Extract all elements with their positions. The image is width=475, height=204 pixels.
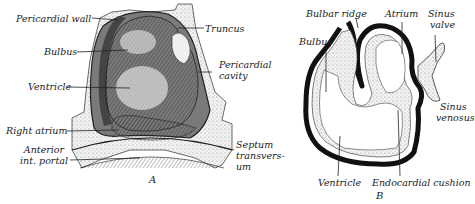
label-sinus-venosus-line1: Sinus [440, 102, 467, 112]
label-ventricle-b: Ventricle [318, 178, 361, 188]
label-right-atrium: Right atrium [6, 126, 67, 136]
figure-b-caption: B [376, 190, 383, 201]
label-truncus: Truncus [205, 24, 244, 34]
label-sinus-valve-line1: Sinus [428, 9, 455, 19]
label-bulbus-a: Bulbus [44, 47, 77, 57]
label-sinus-valve-line2: valve [430, 20, 455, 30]
figure-a-caption: A [149, 174, 156, 185]
label-anterior-portal-line1: Anterior [20, 145, 68, 155]
label-anterior-portal-line2: int. portal [18, 156, 70, 166]
label-septum-line3: um [236, 162, 251, 172]
label-pericardial-wall: Pericardial wall [16, 14, 91, 24]
label-pericardial-cavity-line1: Pericardial [219, 60, 272, 70]
label-bulbar-ridge: Bulbar ridge [306, 9, 367, 19]
label-endocardial-cushion: Endocardial cushion [372, 178, 471, 188]
label-sinus-venosus-line2: venosus [436, 113, 475, 123]
label-ventricle-a: Ventricle [28, 82, 71, 92]
label-septum-line2: transvers- [236, 151, 285, 161]
label-septum-line1: Septum [236, 140, 273, 150]
label-atrium: Atrium [385, 9, 418, 19]
label-bulbus-b: Bulbus [299, 37, 332, 47]
label-pericardial-cavity-line2: cavity [219, 71, 248, 81]
